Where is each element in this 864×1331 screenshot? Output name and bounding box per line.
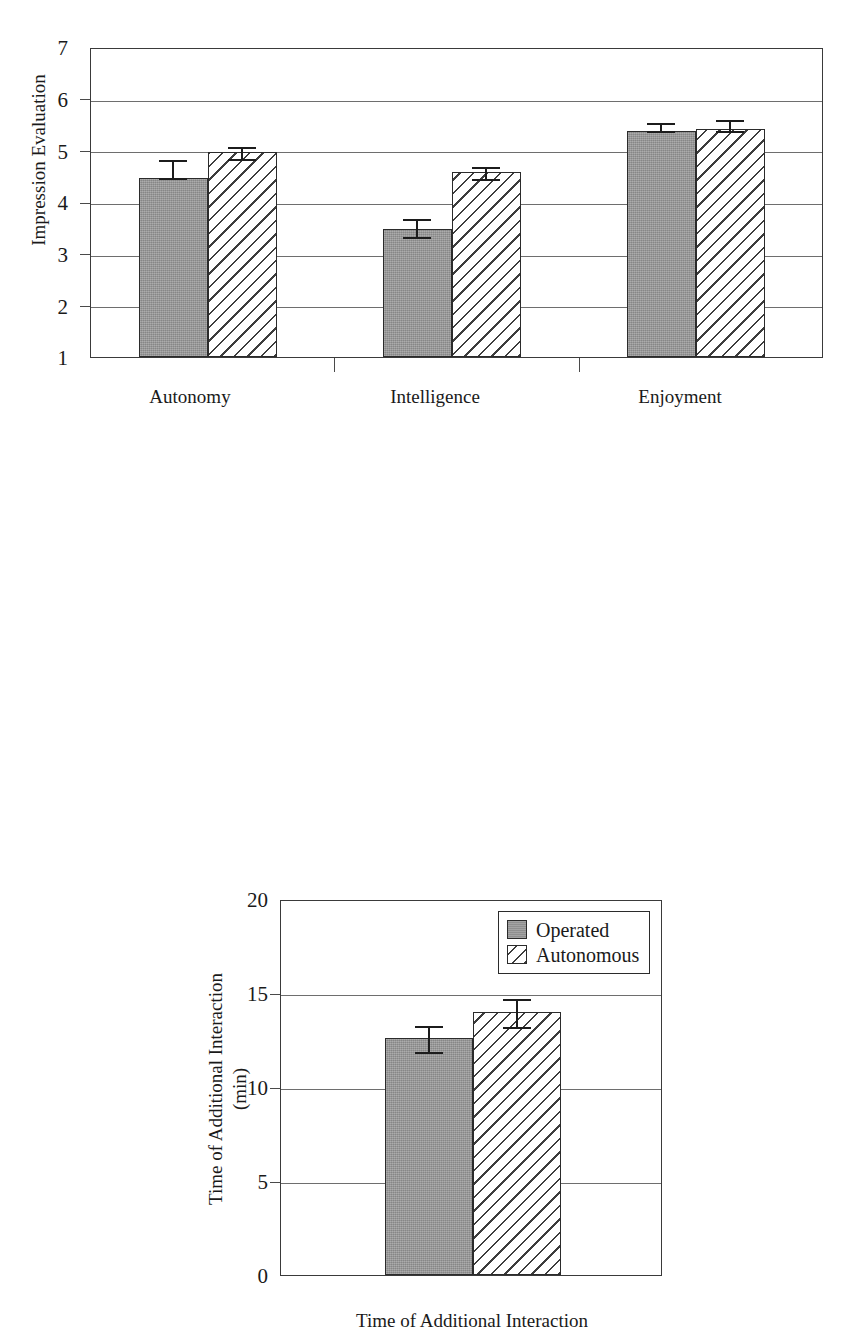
time-of-additional-interaction-chart: Time of Additional Interaction (min) 20 … (0, 430, 864, 927)
chart2-ytick-label: 0 (228, 1266, 268, 1287)
chart1-bar-intelligence-autonomous (452, 172, 521, 357)
chart2-x-axis-title: Time of Additional Interaction (232, 1310, 712, 1331)
chart2-bar-autonomous (473, 1012, 561, 1275)
chart2-ytick-label: 20 (228, 890, 268, 911)
chart1-ytick-mark (80, 203, 90, 204)
chart2-errorbar-operated (415, 1026, 443, 1054)
legend-swatch-operated-icon (507, 920, 527, 939)
chart1-ytick-mark (80, 99, 90, 100)
chart1-bar-enjoyment-operated (627, 131, 696, 357)
chart2-errorbar-autonomous (503, 999, 531, 1029)
chart1-category-divider-tick (334, 358, 335, 372)
chart1-ytick-label: 3 (36, 245, 68, 266)
legend-swatch-autonomous-icon (507, 945, 527, 964)
chart1-errorbar-intelligence-autonomous (472, 167, 500, 180)
chart1-errorbar-intelligence-operated (403, 219, 431, 240)
chart2-y-axis-title-line1: Time of Additional Interaction (205, 929, 227, 1249)
chart1-ytick-label: 6 (36, 90, 68, 111)
chart1-errorbar-autonomy-operated (159, 160, 187, 180)
chart1-errorbar-enjoyment-autonomous (716, 120, 744, 132)
impression-evaluation-chart: Impression Evaluation 7 6 5 4 3 2 1 (0, 0, 864, 430)
chart1-ytick-label: 4 (36, 193, 68, 214)
chart1-ytick-mark (80, 254, 90, 255)
legend-entry-autonomous: Autonomous (507, 942, 639, 967)
chart1-ytick-label: 7 (36, 38, 68, 59)
chart1-bar-enjoyment-autonomous (696, 129, 765, 357)
chart1-ytick-mark (80, 306, 90, 307)
chart2-ytick-label: 15 (228, 984, 268, 1005)
chart2-ytick-label: 10 (228, 1078, 268, 1099)
legend-label-operated: Operated (536, 919, 609, 941)
legend-entry-operated: Operated (507, 917, 639, 942)
chart2-gridline (281, 995, 661, 996)
chart1-category-label-enjoyment: Enjoyment (600, 386, 760, 408)
chart2-ytick-mark (270, 1182, 280, 1183)
chart1-errorbar-enjoyment-operated (647, 123, 675, 133)
chart1-category-label-intelligence: Intelligence (355, 386, 515, 408)
chart1-bar-autonomy-operated (139, 178, 208, 357)
chart1-category-divider-tick (579, 358, 580, 372)
chart1-bar-autonomy-autonomous (208, 152, 277, 357)
chart1-plot-area (90, 48, 823, 358)
chart1-ytick-mark (80, 151, 90, 152)
chart1-errorbar-autonomy-autonomous (228, 147, 256, 160)
chart2-ytick-mark (270, 1088, 280, 1089)
chart1-ytick-label: 2 (36, 297, 68, 318)
chart1-category-label-autonomy: Autonomy (110, 386, 270, 408)
chart2-bar-operated (385, 1038, 473, 1275)
chart1-bar-intelligence-operated (383, 229, 452, 357)
chart2-ytick-label: 5 (228, 1172, 268, 1193)
chart2-legend: Operated Autonomous (498, 911, 650, 974)
chart1-ytick-label: 1 (36, 348, 68, 369)
legend-label-autonomous: Autonomous (536, 944, 639, 966)
chart1-gridline (91, 101, 822, 102)
chart2-ytick-mark (270, 994, 280, 995)
chart1-ytick-label: 5 (36, 142, 68, 163)
